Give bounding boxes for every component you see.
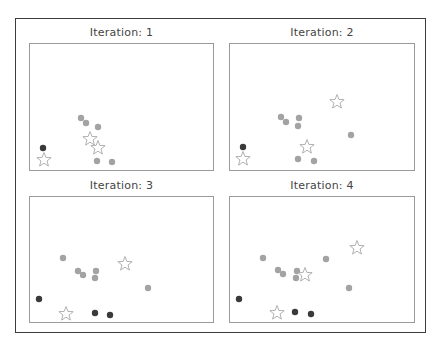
data-point	[323, 256, 329, 262]
data-point	[95, 124, 101, 130]
subplot-title: Iteration: 4	[229, 179, 415, 192]
cluster-point	[107, 312, 113, 318]
data-point	[94, 158, 100, 164]
centroid-star-icon	[236, 152, 250, 166]
scatter-axes	[29, 196, 214, 323]
subplot-iteration-2: Iteration: 2	[229, 43, 415, 171]
scatter-axes	[229, 196, 415, 323]
data-point	[78, 115, 84, 121]
cluster-point	[236, 296, 242, 302]
data-point	[75, 268, 81, 274]
scatter-axes	[229, 43, 415, 171]
centroid-star-icon	[37, 153, 51, 167]
centroid-star-icon	[300, 140, 314, 154]
data-point	[280, 271, 286, 277]
centroid-star-icon	[83, 132, 97, 146]
data-point	[295, 156, 301, 162]
data-point	[296, 115, 302, 121]
scatter-axes	[29, 43, 214, 171]
data-point	[80, 272, 86, 278]
data-point	[60, 255, 66, 261]
data-point	[283, 119, 289, 125]
data-point	[93, 268, 99, 274]
subplot-iteration-4: Iteration: 4	[229, 196, 415, 323]
scatter-plot-area	[230, 197, 416, 324]
data-point	[311, 158, 317, 164]
data-point	[293, 275, 299, 281]
data-point	[145, 285, 151, 291]
data-point	[295, 123, 301, 129]
scatter-plot-area	[230, 44, 416, 172]
scatter-plot-area	[30, 44, 215, 172]
data-point	[275, 267, 281, 273]
data-point	[109, 159, 115, 165]
cluster-point	[308, 311, 314, 317]
centroid-star-icon	[270, 306, 284, 320]
centroid-star-icon	[59, 307, 73, 321]
centroid-star-icon	[118, 257, 132, 271]
cluster-point	[36, 296, 42, 302]
subplot-title: Iteration: 3	[29, 179, 214, 192]
cluster-point	[40, 145, 46, 151]
centroid-star-icon	[350, 241, 364, 255]
data-point	[346, 285, 352, 291]
data-point	[260, 255, 266, 261]
scatter-plot-area	[30, 197, 215, 324]
data-point	[278, 114, 284, 120]
cluster-point	[240, 144, 246, 150]
centroid-star-icon	[330, 95, 344, 109]
subplot-iteration-3: Iteration: 3	[29, 196, 214, 323]
data-point	[83, 120, 89, 126]
centroid-star-icon	[298, 268, 312, 282]
subplot-iteration-1: Iteration: 1	[29, 43, 214, 171]
cluster-point	[92, 310, 98, 316]
cluster-point	[292, 309, 298, 315]
subplot-title: Iteration: 2	[229, 26, 415, 39]
subplot-title: Iteration: 1	[29, 26, 214, 39]
data-point	[348, 132, 354, 138]
data-point	[92, 275, 98, 281]
